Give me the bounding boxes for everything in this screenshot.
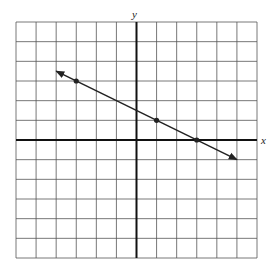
line-series xyxy=(56,71,237,160)
plotted-line xyxy=(56,71,237,160)
y-axis-label: y xyxy=(131,8,137,20)
x-axis-label: x xyxy=(260,134,266,146)
data-point xyxy=(154,118,159,123)
data-point xyxy=(194,137,199,142)
axes xyxy=(16,22,257,258)
coordinate-plane: x y xyxy=(0,0,276,274)
data-point xyxy=(74,78,79,83)
